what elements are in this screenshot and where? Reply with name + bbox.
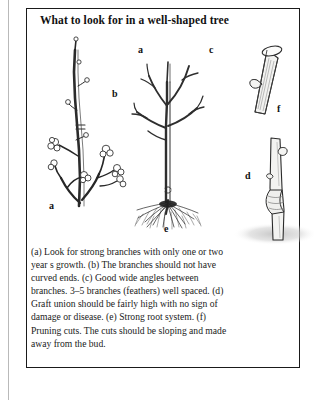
figure-label-d-right: d — [245, 170, 251, 181]
figure-label-a-center: a — [138, 44, 143, 55]
figure-label-a-left: a — [49, 200, 54, 211]
page-title: What to look for in a well-shaped tree — [40, 14, 229, 26]
figure-illustration-area: a — [27, 28, 299, 243]
figure-label-c-center: c — [209, 44, 213, 55]
pruning-cut-illustration: f — [233, 36, 297, 136]
whole-tree-illustration: a b c e — [109, 30, 227, 235]
figure-caption: (a) Look for strong branches with only o… — [31, 245, 231, 350]
figure-label-f-right: f — [277, 103, 280, 114]
figure-label-b-center: b — [112, 88, 118, 99]
graft-union-illustration: d — [227, 128, 314, 248]
figure-label-e-center: e — [164, 223, 168, 234]
page-root: What to look for in a well-shaped tree — [0, 0, 314, 400]
gutter-rule — [8, 0, 9, 400]
